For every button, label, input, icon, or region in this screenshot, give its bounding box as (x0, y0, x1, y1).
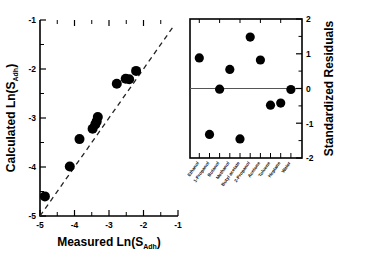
data-point (112, 79, 122, 89)
left-x-tick-3: -2 (140, 220, 148, 230)
right-y-tick-4: -2 (306, 153, 314, 163)
left-x-title-tail: ) (157, 235, 161, 249)
residual-point (195, 53, 204, 62)
data-point (40, 191, 50, 201)
residual-point (256, 55, 265, 64)
left-panel: -1 -2 -3 -4 -5 (4, 15, 182, 250)
residual-point (225, 65, 234, 74)
residual-point (286, 85, 295, 94)
right-category-labels: Ethanol 1-Propanol Butanol Methanol Buty… (186, 160, 291, 187)
data-point (131, 66, 141, 76)
left-x-title-main: Measured Ln(S (57, 235, 143, 249)
data-point (75, 134, 85, 144)
left-x-tick-0: -5 (36, 220, 44, 230)
left-x-title-sub: Adh (143, 243, 157, 250)
left-x-ticklabels: -5 -4 -3 -2 -1 (36, 220, 182, 230)
left-y-title-tail: ) (4, 64, 18, 68)
left-y-axis-title: Calculated Ln(SAdh) (4, 64, 19, 172)
scatter-residual-figure: -1 -2 -3 -4 -5 (0, 0, 367, 278)
left-y-title-main: Calculated Ln(S (4, 81, 18, 172)
left-y-tick-0: -1 (28, 15, 36, 25)
residual-point (235, 134, 244, 143)
left-y-tick-2: -3 (28, 113, 36, 123)
right-y-axis-title: Standardized Residuals (322, 20, 336, 156)
left-x-tick-2: -3 (105, 220, 113, 230)
left-y-ticklabels: -1 -2 -3 -4 -5 (28, 15, 36, 221)
data-point (65, 162, 75, 172)
left-y-ticks (40, 20, 46, 216)
right-y-tick-1: 1 (306, 49, 311, 59)
identity-fit-line (40, 27, 173, 216)
residual-point (266, 101, 275, 110)
svg-text:Calculated Ln(SAdh): Calculated Ln(SAdh) (4, 64, 19, 172)
data-point (124, 74, 134, 84)
category-label: Water (280, 161, 291, 174)
right-y-ticklabels: 2 1 0 -1 -2 (306, 14, 314, 163)
residual-point (205, 130, 214, 139)
left-x-ticks (40, 210, 178, 216)
left-y-tick-1: -2 (28, 64, 36, 74)
right-y-tick-3: -1 (306, 119, 314, 129)
residual-point (215, 85, 224, 94)
right-y-ticks (296, 19, 302, 158)
left-y-title-sub: Adh (12, 68, 19, 82)
right-panel: 2 1 0 -1 -2 (186, 14, 336, 187)
left-x-tick-1: -4 (71, 220, 79, 230)
residual-point (246, 33, 255, 42)
right-y-tick-2: 0 (306, 84, 311, 94)
residual-point (276, 99, 285, 108)
left-x-tick-4: -1 (174, 220, 182, 230)
left-y-tick-4: -5 (28, 211, 36, 221)
figure-container: -1 -2 -3 -4 -5 (0, 0, 367, 278)
left-y-tick-3: -4 (28, 162, 36, 172)
left-top-ticks (57, 20, 161, 26)
left-data-points (40, 66, 141, 202)
left-x-axis-title: Measured Ln(SAdh) (57, 235, 161, 250)
right-y-tick-0: 2 (306, 14, 311, 24)
data-point (93, 112, 103, 122)
